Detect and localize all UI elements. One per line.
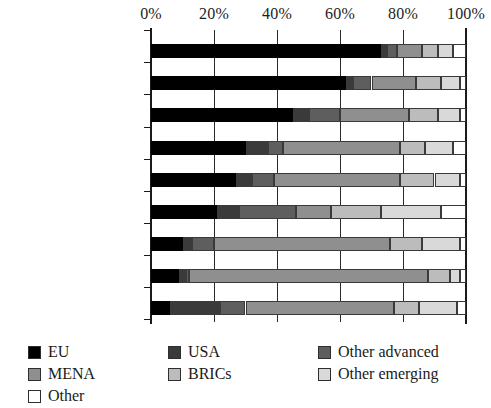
bar-segment-other-advanced xyxy=(353,76,372,90)
bar-segment-mena xyxy=(214,237,390,251)
bar-segment-mena xyxy=(246,301,394,315)
legend-item-other-advanced[interactable]: Other advanced xyxy=(318,344,439,360)
bar-segment-brics xyxy=(428,269,450,283)
bar-segment-mena xyxy=(397,44,422,58)
bar-segment-other-advanced xyxy=(268,141,284,155)
bar-row xyxy=(151,301,466,315)
bar-segment-eu xyxy=(151,76,346,90)
bar-segment-brics xyxy=(400,173,435,187)
bar-segment-brics xyxy=(390,237,422,251)
x-tick-label-0: 0% xyxy=(140,6,162,22)
legend-swatch-icon xyxy=(28,390,41,403)
bar-segment-other-advanced xyxy=(239,205,296,219)
bar-segment-eu xyxy=(151,205,217,219)
bar-segment-other xyxy=(453,44,466,58)
bar-segment-other-emerging xyxy=(438,44,454,58)
bar-segment-usa xyxy=(170,301,220,315)
legend-label: USA xyxy=(188,344,220,360)
y-tick-mark-6 xyxy=(144,223,151,224)
x-tick-label-60: 60% xyxy=(325,6,355,22)
legend-item-other[interactable]: Other xyxy=(28,388,84,404)
legend-label: Other xyxy=(48,388,84,404)
legend-swatch-icon xyxy=(318,368,331,381)
bar-segment-other-advanced xyxy=(220,301,245,315)
bar-segment-mena xyxy=(283,141,400,155)
bar-segment-other-advanced xyxy=(309,108,341,122)
legend-swatch-icon xyxy=(168,346,181,359)
bar-segment-other-emerging xyxy=(438,108,460,122)
bar-row xyxy=(151,269,466,283)
bar-segment-other-emerging xyxy=(422,237,460,251)
x-tick-label-100: 100% xyxy=(447,6,485,22)
bar-segment-eu xyxy=(151,269,179,283)
y-tick-mark-4 xyxy=(144,159,151,160)
bar-row xyxy=(151,108,466,122)
chart-legend: EUMENAOtherUSABRICsOther advancedOther e… xyxy=(0,340,491,408)
bar-segment-other xyxy=(441,205,466,219)
legend-label: BRICs xyxy=(188,366,232,382)
y-tick-mark-0 xyxy=(144,30,151,31)
bar-row xyxy=(151,237,466,251)
bar-segment-usa xyxy=(236,173,252,187)
bar-segment-eu xyxy=(151,301,170,315)
y-tick-mark-9 xyxy=(144,319,151,320)
bar-segment-other-emerging xyxy=(425,141,453,155)
bar-segment-brics xyxy=(422,44,438,58)
legend-item-usa[interactable]: USA xyxy=(168,344,220,360)
bar-segment-other xyxy=(457,301,466,315)
legend-item-other-emerging[interactable]: Other emerging xyxy=(318,366,439,382)
legend-swatch-icon xyxy=(318,346,331,359)
bar-row xyxy=(151,44,466,58)
bar-segment-other xyxy=(460,237,466,251)
legend-item-brics[interactable]: BRICs xyxy=(168,366,232,382)
bar-segment-usa xyxy=(183,237,192,251)
y-tick-mark-5 xyxy=(144,191,151,192)
bar-segment-other xyxy=(460,269,466,283)
bar-segment-brics xyxy=(400,141,425,155)
legend-swatch-icon xyxy=(28,368,41,381)
bar-segment-eu xyxy=(151,173,236,187)
stacked-bar-chart: 0%20%40%60%80%100% TunisiaMoroccoResourc… xyxy=(0,0,491,408)
bar-segment-other-advanced xyxy=(387,44,396,58)
bar-segment-other xyxy=(460,108,466,122)
bar-segment-other-advanced xyxy=(192,237,214,251)
y-tick-mark-3 xyxy=(144,127,151,128)
legend-label: Other emerging xyxy=(338,366,439,382)
bar-segment-other-emerging xyxy=(435,173,460,187)
x-tick-label-80: 80% xyxy=(388,6,418,22)
bar-segment-usa xyxy=(293,108,309,122)
legend-label: EU xyxy=(48,344,69,360)
legend-label: MENA xyxy=(48,366,95,382)
bar-segment-mena xyxy=(296,205,331,219)
bar-segment-eu xyxy=(151,108,293,122)
x-tick-label-40: 40% xyxy=(262,6,292,22)
bar-row xyxy=(151,173,466,187)
bar-segment-eu xyxy=(151,44,381,58)
plot-area xyxy=(151,30,466,322)
legend-swatch-icon xyxy=(28,346,41,359)
y-tick-mark-1 xyxy=(144,62,151,63)
bar-segment-eu xyxy=(151,141,246,155)
bar-segment-brics xyxy=(394,301,419,315)
bar-segment-mena xyxy=(274,173,400,187)
bar-segment-mena xyxy=(340,108,409,122)
y-tick-mark-8 xyxy=(144,287,151,288)
bar-row xyxy=(151,76,466,90)
y-tick-mark-2 xyxy=(144,94,151,95)
bar-segment-other xyxy=(453,141,466,155)
bar-row xyxy=(151,205,466,219)
bar-segment-mena xyxy=(372,76,416,90)
bar-segment-eu xyxy=(151,237,183,251)
bar-row xyxy=(151,141,466,155)
legend-item-mena[interactable]: MENA xyxy=(28,366,95,382)
legend-item-eu[interactable]: EU xyxy=(28,344,69,360)
bar-segment-brics xyxy=(331,205,381,219)
x-tick-label-20: 20% xyxy=(199,6,229,22)
bar-segment-brics xyxy=(416,76,441,90)
bar-segment-usa xyxy=(217,205,239,219)
bar-segment-other-advanced xyxy=(252,173,274,187)
y-tick-mark-7 xyxy=(144,255,151,256)
bar-segment-other xyxy=(460,76,466,90)
legend-swatch-icon xyxy=(168,368,181,381)
bar-segment-other-emerging xyxy=(419,301,457,315)
